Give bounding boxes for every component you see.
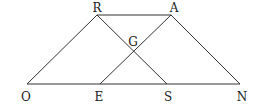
point-label-o: O: [21, 90, 31, 104]
point-label-r: R: [92, 1, 102, 15]
point-label-e: E: [95, 90, 104, 104]
segment-or: [27, 15, 97, 84]
segments-group: [27, 15, 240, 84]
segment-an: [171, 15, 240, 84]
segment-ea: [100, 15, 171, 84]
segment-rs: [97, 15, 167, 84]
point-label-g: G: [128, 35, 138, 49]
point-label-a: A: [169, 1, 179, 15]
geometry-diagram: RAGOESN: [0, 0, 258, 110]
point-label-n: N: [237, 90, 248, 104]
point-label-s: S: [164, 90, 172, 104]
labels-group: RAGOESN: [21, 1, 247, 104]
